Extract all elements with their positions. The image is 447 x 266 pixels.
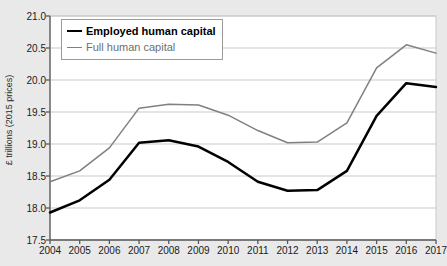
x-tick-label: 2014	[336, 245, 358, 256]
legend-label-full: Full human capital	[86, 41, 175, 53]
x-tick-label: 2009	[187, 245, 209, 256]
legend-label-employed: Employed human capital	[86, 25, 216, 37]
chart-legend: Employed human capital Full human capita…	[61, 19, 223, 60]
x-tick-label: 2006	[98, 245, 120, 256]
x-tick-label: 2004	[39, 245, 61, 256]
legend-swatch-icon-employed	[67, 30, 82, 32]
x-axis-tick-labels: 2004200520062007200820092010201120122013…	[50, 243, 436, 263]
x-tick-label: 2017	[425, 245, 447, 256]
legend-item-full-human-capital: Full human capital	[67, 39, 216, 55]
x-tick-label: 2010	[217, 245, 239, 256]
x-tick-label: 2012	[276, 245, 298, 256]
x-tick-label: 2008	[158, 245, 180, 256]
x-tick-label: 2015	[365, 245, 387, 256]
legend-swatch-icon-full	[67, 47, 82, 48]
x-tick-label: 2013	[306, 245, 328, 256]
x-tick-label: 2005	[69, 245, 91, 256]
x-tick-label: 2011	[247, 245, 269, 256]
x-tick-label: 2016	[395, 245, 417, 256]
legend-item-employed-human-capital: Employed human capital	[67, 23, 216, 39]
x-tick-label: 2007	[128, 245, 150, 256]
